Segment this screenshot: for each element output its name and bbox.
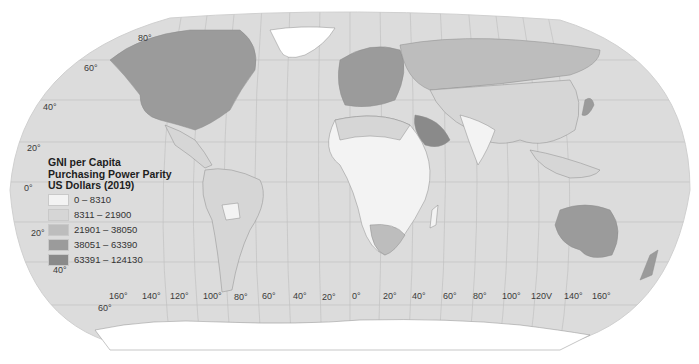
- longitude-label: 20°: [383, 291, 397, 301]
- legend-item: 0 – 8310: [48, 193, 172, 207]
- longitude-label: 120°: [170, 291, 189, 301]
- longitude-label: 80°: [473, 291, 487, 301]
- europe: [338, 47, 404, 107]
- legend-label: 21901 – 38050: [74, 224, 137, 235]
- legend-item: 21901 – 38050: [48, 223, 172, 237]
- latitude-label: 20°: [31, 228, 45, 238]
- legend-item: 63391 – 124130: [48, 253, 172, 267]
- longitude-label: 60°: [262, 291, 276, 301]
- longitude-label: 80°: [234, 292, 248, 302]
- longitude-label: 120V: [531, 291, 552, 301]
- longitude-label: 100°: [203, 291, 222, 301]
- legend-swatch: [48, 254, 69, 266]
- latitude-label: 40°: [43, 102, 57, 112]
- legend-item: 8311 – 21900: [48, 208, 172, 222]
- legend-title-line: GNI per Capita: [48, 157, 172, 169]
- legend-swatch: [48, 194, 69, 206]
- legend-title-line: US Dollars (2019): [48, 180, 172, 192]
- legend-label: 63391 – 124130: [74, 254, 143, 265]
- legend-swatch: [48, 224, 69, 236]
- legend-label: 0 – 8310: [74, 194, 111, 205]
- legend-swatch: [48, 239, 69, 251]
- longitude-label: 140°: [142, 291, 161, 301]
- latitude-label: 60°: [84, 63, 98, 73]
- latitude-label: 80°: [138, 33, 152, 43]
- latitude-label: 40°: [53, 265, 67, 275]
- longitude-label: 160°: [592, 291, 611, 301]
- longitude-label: 100°: [502, 291, 521, 301]
- longitude-label: 140°: [564, 291, 583, 301]
- longitude-label: 160°: [109, 291, 128, 301]
- legend: GNI per Capita Purchasing Power Parity U…: [48, 157, 172, 267]
- longitude-label: 40°: [412, 291, 426, 301]
- legend-label: 8311 – 21900: [74, 209, 131, 220]
- legend-swatch: [48, 209, 69, 221]
- latitude-label: 0°: [24, 183, 33, 193]
- latitude-label: 60°: [98, 303, 112, 313]
- legend-item: 38051 – 63390: [48, 238, 172, 252]
- longitude-label: 40°: [293, 291, 307, 301]
- legend-label: 38051 – 63390: [74, 239, 137, 250]
- longitude-label: 60°: [443, 291, 457, 301]
- longitude-label: 20°: [322, 292, 336, 302]
- longitude-label: 0°: [352, 291, 361, 301]
- latitude-label: 20°: [27, 143, 41, 153]
